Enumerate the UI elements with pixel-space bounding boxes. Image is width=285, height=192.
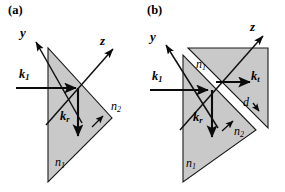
panel-b-y-axis-label: y: [150, 30, 156, 43]
panel-a-outer-index-label: n2: [111, 100, 121, 114]
panel-b-tag: (b): [147, 4, 162, 17]
panel-a-prism-index-label: n1: [55, 156, 65, 170]
panel-a-prism-index-sub: 1: [61, 161, 65, 170]
panel-a-y-axis-label: y: [20, 26, 26, 39]
figure-root: (a) y z k1 kr n1 n2 (b) y z k1 kr kt n1 …: [0, 0, 285, 192]
panel-b-geometry: [150, 36, 268, 182]
panel-b-upper-prism-index-label: n1: [196, 58, 206, 72]
panel-b-reflected-vector-sub: r: [199, 115, 202, 125]
panel-b-gap-index-label: n2: [234, 125, 244, 139]
panel-a-incident-vector-sub: 1: [25, 72, 29, 82]
panel-a-outer-index-sub: 2: [117, 105, 121, 114]
panel-a-tag: (a): [8, 4, 23, 17]
panel-b-incident-vector-sub: 1: [158, 74, 162, 84]
panel-b-transmitted-vector-sub: t: [257, 74, 259, 84]
panel-b-gap-width-label: d: [243, 96, 249, 108]
panel-a-reflected-vector-sub: r: [66, 114, 69, 124]
panel-b-reflected-vector-label: kr: [193, 111, 203, 124]
panel-b-z-axis-label: z: [250, 20, 255, 33]
panel-b-gap-index-sub: 2: [240, 130, 244, 139]
panel-b-upper-prism-index-sub: 1: [202, 63, 206, 72]
panel-b-transmitted-vector-label: kt: [251, 70, 260, 83]
panel-a-z-axis-label: z: [100, 34, 105, 47]
panel-b-lower-prism-index-sub: 1: [192, 162, 196, 171]
panel-a-reflected-vector-label: kr: [60, 110, 70, 123]
panel-b-incident-vector-label: k1: [152, 70, 163, 83]
panel-b-lower-prism-index-label: n1: [186, 157, 196, 171]
panel-a-incident-vector-label: k1: [19, 68, 30, 81]
